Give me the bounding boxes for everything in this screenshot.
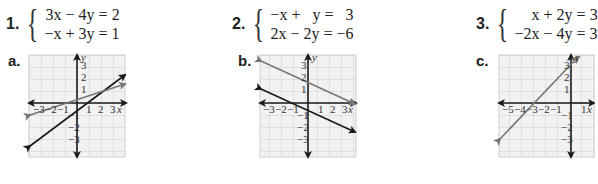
- svg-text:−3: −3: [561, 133, 573, 145]
- graph-a: 321 −1−2−3 −3−2−1 123 x y: [29, 51, 126, 157]
- svg-text:1: 1: [301, 83, 307, 95]
- svg-text:−4: −4: [514, 103, 526, 115]
- svg-text:y: y: [311, 51, 317, 63]
- svg-text:−3: −3: [263, 103, 275, 115]
- svg-text:x: x: [586, 103, 592, 115]
- svg-text:y: y: [80, 51, 86, 63]
- svg-text:−1: −1: [57, 103, 69, 115]
- svg-text:1: 1: [318, 103, 324, 115]
- svg-text:x: x: [347, 103, 353, 115]
- svg-text:−1: −1: [287, 103, 299, 115]
- svg-text:−2: −2: [561, 121, 573, 133]
- graph-b: 321 −1−2−3 −3−2−1 123 x y: [260, 51, 356, 157]
- svg-text:y: y: [574, 51, 580, 63]
- svg-text:−1: −1: [68, 109, 80, 121]
- svg-text:2: 2: [301, 71, 307, 83]
- svg-text:−2: −2: [538, 103, 550, 115]
- svg-text:−3: −3: [68, 133, 80, 145]
- svg-text:−1: −1: [550, 103, 562, 115]
- graph-c: 321 −1−2−3 −5−4−3 −2−1 1x y: [499, 51, 595, 157]
- svg-text:3: 3: [110, 103, 116, 115]
- svg-text:2: 2: [81, 71, 87, 83]
- svg-text:3: 3: [564, 59, 570, 71]
- svg-text:−1: −1: [561, 109, 573, 121]
- svg-text:−2: −2: [275, 103, 287, 115]
- svg-text:−3: −3: [33, 103, 45, 115]
- svg-text:1: 1: [81, 83, 87, 95]
- svg-text:−1: −1: [297, 109, 309, 121]
- svg-text:3: 3: [301, 59, 307, 71]
- svg-text:−3: −3: [297, 133, 309, 145]
- svg-text:−2: −2: [68, 121, 80, 133]
- svg-text:1: 1: [564, 83, 570, 95]
- svg-text:−3: −3: [526, 103, 538, 115]
- svg-text:1: 1: [86, 103, 92, 115]
- svg-text:1: 1: [581, 103, 587, 115]
- svg-text:x: x: [116, 103, 122, 115]
- svg-text:2: 2: [330, 103, 336, 115]
- svg-text:−2: −2: [45, 103, 57, 115]
- svg-text:−5: −5: [502, 103, 514, 115]
- svg-text:2: 2: [564, 71, 570, 83]
- svg-text:−2: −2: [297, 121, 309, 133]
- svg-text:2: 2: [98, 103, 104, 115]
